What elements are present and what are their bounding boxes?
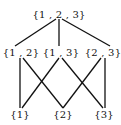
edge-n123-n12 xyxy=(15,19,56,46)
hasse-diagram: {1 , 2 , 3} {1 , 2} {1 , 3} {2 , 3} {1} … xyxy=(0,0,121,125)
node-1: {1} xyxy=(10,109,30,120)
edge-n13-n1 xyxy=(22,58,59,108)
edge-n12-n2 xyxy=(23,58,63,108)
edge-n123-n23 xyxy=(62,19,110,46)
node-3: {3} xyxy=(94,109,114,120)
node-1-2: {1 , 2} xyxy=(3,47,39,58)
node-2-3: {2 , 3} xyxy=(85,47,121,58)
node-1-3: {1 , 3} xyxy=(43,47,79,58)
node-1-2-3: {1 , 2 , 3} xyxy=(32,9,85,20)
node-2: {2} xyxy=(53,109,73,120)
